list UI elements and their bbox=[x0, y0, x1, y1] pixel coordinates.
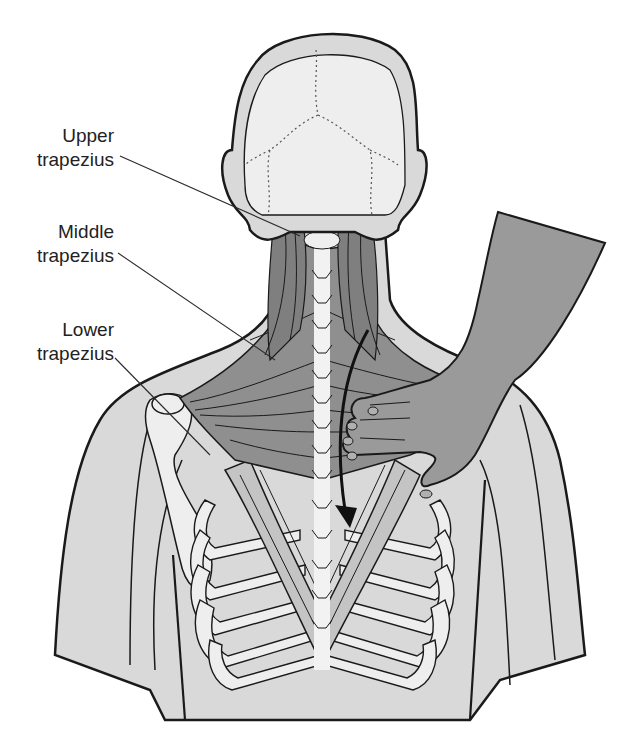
label-middle-line1: Middle bbox=[4, 220, 114, 244]
label-middle-line2: trapezius bbox=[4, 244, 114, 268]
label-upper-line1: Upper bbox=[4, 124, 114, 148]
anatomy-illustration bbox=[0, 0, 624, 736]
label-lower-trapezius: Lower trapezius bbox=[4, 318, 114, 366]
head bbox=[222, 34, 426, 240]
label-middle-trapezius: Middle trapezius bbox=[4, 220, 114, 268]
trapezius-diagram: Upper trapezius Middle trapezius Lower t… bbox=[0, 0, 624, 736]
label-upper-line2: trapezius bbox=[4, 148, 114, 172]
label-lower-line2: trapezius bbox=[4, 342, 114, 366]
label-upper-trapezius: Upper trapezius bbox=[4, 124, 114, 172]
label-lower-line1: Lower bbox=[4, 318, 114, 342]
leader-line-middle bbox=[118, 253, 275, 360]
